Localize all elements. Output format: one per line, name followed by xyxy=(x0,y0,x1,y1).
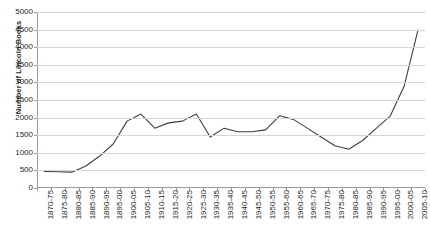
x-axis-tick-label: 1935-40 xyxy=(227,190,235,219)
y-axis-tick-label: 1500 xyxy=(15,131,33,139)
x-axis-tick-label: 2005-10 xyxy=(421,190,429,219)
y-axis-tick-label: 1000 xyxy=(15,149,33,157)
gridline xyxy=(37,170,425,171)
x-axis-tick-label: 1970-75 xyxy=(324,190,332,219)
plot-area xyxy=(37,12,425,188)
x-axis-tick-label: 1965-70 xyxy=(310,190,318,219)
x-axis-tick-labels: 1870-751875-801880-851885-901890-951895-… xyxy=(37,190,425,241)
y-axis-tick-label: 2000 xyxy=(15,114,33,122)
x-axis-tick-label: 1930-35 xyxy=(213,190,221,219)
x-axis-tick-label: 1955-60 xyxy=(283,190,291,219)
x-axis-tick-label: 1905-10 xyxy=(144,190,152,219)
x-axis-tick-label: 1995-00 xyxy=(394,190,402,219)
y-axis-tick-label: 4500 xyxy=(15,26,33,34)
x-axis-tick-label: 1920-25 xyxy=(186,190,194,219)
x-axis-tick-label: 1890-95 xyxy=(103,190,111,219)
y-axis-tick-labels: 0500100015002000250030003500400045005000 xyxy=(0,0,36,241)
x-axis-tick-label: 1980-85 xyxy=(352,190,360,219)
y-axis-tick-label: 500 xyxy=(20,166,33,174)
y-axis-tick xyxy=(34,12,37,13)
y-axis-tick xyxy=(34,65,37,66)
gridline xyxy=(37,12,425,13)
y-axis-tick-label: 3500 xyxy=(15,61,33,69)
y-axis-tick xyxy=(34,82,37,83)
lincoln-books-line-chart: Number of Lincoln Books 0500100015002000… xyxy=(0,0,430,241)
x-axis-tick-label: 1950-55 xyxy=(269,190,277,219)
x-axis-tick-label: 1925-30 xyxy=(200,190,208,219)
y-axis-tick xyxy=(34,118,37,119)
x-axis-tick-label: 1990-95 xyxy=(380,190,388,219)
x-axis-tick-label: 1985-90 xyxy=(366,190,374,219)
x-axis-tick-label: 1895-00 xyxy=(116,190,124,219)
gridline xyxy=(37,153,425,154)
y-axis-tick xyxy=(34,47,37,48)
y-axis-tick xyxy=(34,30,37,31)
x-axis-tick-label: 1910-15 xyxy=(158,190,166,219)
gridline xyxy=(37,30,425,31)
y-axis-tick xyxy=(34,135,37,136)
y-axis-tick-label: 0 xyxy=(29,184,33,192)
x-axis-tick-label: 1945-50 xyxy=(255,190,263,219)
gridline xyxy=(37,118,425,119)
x-axis-tick-label: 1900-05 xyxy=(130,190,138,219)
y-axis-tick xyxy=(34,170,37,171)
x-axis-tick-label: 2000-05 xyxy=(407,190,415,219)
gridline xyxy=(37,100,425,101)
x-axis-tick-label: 1885-90 xyxy=(89,190,97,219)
x-axis-tick-label: 1960-65 xyxy=(297,190,305,219)
gridline xyxy=(37,135,425,136)
y-axis-tick-label: 5000 xyxy=(15,8,33,16)
y-axis-tick-label: 2500 xyxy=(15,96,33,104)
x-axis-tick-label: 1875-80 xyxy=(61,190,69,219)
y-axis-tick xyxy=(34,100,37,101)
gridline xyxy=(37,47,425,48)
x-axis-tick-label: 1975-80 xyxy=(338,190,346,219)
x-axis-tick-label: 1880-85 xyxy=(75,190,83,219)
y-axis-tick-label: 3000 xyxy=(15,78,33,86)
x-axis-tick-label: 1870-75 xyxy=(47,190,55,219)
y-axis-tick-label: 4000 xyxy=(15,43,33,51)
gridline xyxy=(37,82,425,83)
x-axis-tick-label: 1940-45 xyxy=(241,190,249,219)
gridline xyxy=(37,65,425,66)
x-axis-tick-label: 1915-20 xyxy=(172,190,180,219)
y-axis-tick xyxy=(34,153,37,154)
